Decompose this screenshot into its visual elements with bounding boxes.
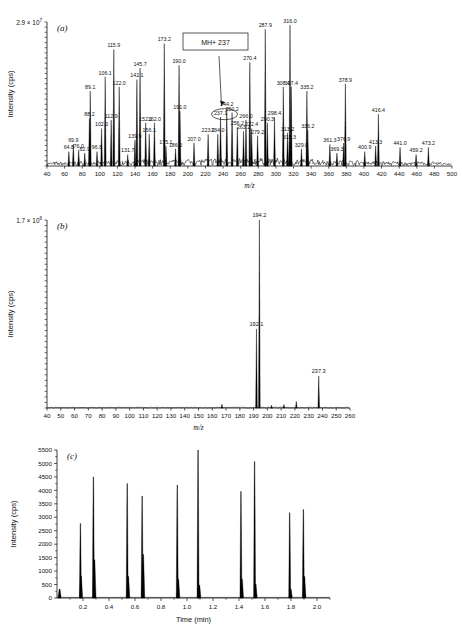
panel-c-peak [197, 450, 199, 598]
panel-a-xtick: 340 [306, 170, 317, 177]
panel-a-peak-label: 106.1 [99, 70, 112, 76]
panel-a-peak [207, 134, 209, 166]
panel-c-xtick: 2.0 [313, 603, 322, 610]
panel-b-peak [295, 401, 297, 408]
panel-a-peak [78, 150, 80, 166]
panel-a-peak [96, 152, 98, 166]
panel-a-peak-label: 82.9 [80, 146, 90, 152]
panel-a-peak [236, 127, 238, 166]
panel-a-peak-label: 316.0 [283, 18, 296, 24]
panel-b-xtick: 240 [317, 412, 328, 419]
panel-a-xtick: 100 [95, 170, 106, 177]
panel-b-peak-label: 192.1 [249, 321, 263, 327]
panel-b-svg: 4050607080901001101201301401501601701801… [0, 196, 462, 434]
panel-c-ytick: 3000 [38, 513, 52, 520]
panel-b-peak [221, 404, 223, 408]
panel-a-peak-label: 102.0 [95, 121, 108, 127]
panel-b-xtick: 60 [71, 412, 78, 419]
panel-b-xtick: 70 [85, 412, 92, 419]
panel-b-xtick: 210 [276, 412, 287, 419]
panel-a-peak [217, 134, 219, 166]
panel-a-peak [249, 62, 251, 166]
panel-a-peak-label: 145.7 [133, 61, 146, 67]
panel-a-peak-label: 279.2 [251, 129, 264, 135]
panel-a-peak-label: 115.9 [107, 42, 120, 48]
panel-a-peak [377, 114, 379, 166]
panel-a-peak [118, 87, 120, 166]
panel-c-chromatogram: 0500100015002000250030003500400045005000… [0, 434, 462, 630]
panel-b-y-scale: 1.7 × 106 [16, 216, 42, 224]
panel-a-peak-label: 378.9 [339, 77, 352, 83]
panel-a-peak [264, 29, 266, 166]
panel-b-peak [259, 220, 261, 408]
panel-c-peak [58, 589, 61, 598]
panel-a-peak [243, 131, 245, 166]
panel-a-peak-label: 173.2 [158, 36, 171, 42]
panel-a-xtick: 220 [200, 170, 211, 177]
panel-b-xtick: 130 [166, 412, 177, 419]
panel-a-xtick: 460 [412, 170, 423, 177]
panel-b-xtick: 150 [193, 412, 204, 419]
panel-a-peak-label: 64.8 [64, 144, 74, 150]
panel-a-peak-label: 190.0 [172, 58, 185, 64]
panel-b-xtick: 40 [44, 412, 51, 419]
panel-a-peak [257, 136, 259, 166]
panel-c-ytick: 0 [49, 594, 53, 601]
panel-c-xtick: 1.4 [235, 603, 244, 610]
panel-c-ytick: 2000 [38, 540, 52, 547]
panel-c-xtick: 0.8 [157, 603, 166, 610]
panel-c-peak [254, 462, 256, 598]
panel-b-xtick: 230 [304, 412, 315, 419]
panel-a-peak [136, 80, 138, 166]
panel-b-xtick: 170 [221, 412, 232, 419]
panel-a-peak [193, 143, 195, 166]
panel-a-peak-label: 336.2 [301, 123, 314, 129]
panel-a-peak-label: 441.0 [393, 140, 406, 146]
panel-c-xtick: 1.6 [261, 603, 270, 610]
panel-a-peak-label: 266.0 [239, 113, 252, 119]
panel-b-peak [318, 376, 320, 408]
panel-c-ytick: 3500 [38, 500, 52, 507]
panel-a-peak-label: 162.0 [148, 116, 161, 122]
panel-c-ytick: 1500 [38, 554, 52, 561]
panel-a-peak [127, 155, 129, 167]
panel-a-peak [89, 91, 91, 166]
panel-a-peak-label: 142.1 [130, 72, 143, 78]
panel-a-xtick: 40 [44, 170, 51, 177]
panel-a-peak [428, 147, 430, 166]
panel-b-peak-label: 237.3 [312, 368, 326, 374]
panel-a-peak [110, 120, 112, 166]
panel-b-xtick: 160 [207, 412, 218, 419]
panel-a-xtick: 400 [359, 170, 370, 177]
panel-a-xtick: 140 [130, 170, 141, 177]
panel-b-xtick: 110 [138, 412, 148, 419]
panel-a-peak-label: 89.1 [85, 84, 95, 90]
panel-a-peak-label: 156.1 [143, 127, 156, 133]
panel-a-peak-label: 317.4 [285, 80, 298, 86]
panel-a-label: (a) [57, 23, 68, 33]
panel-a-peak [101, 129, 103, 166]
panel-a-peak-label: 234.0 [211, 127, 224, 133]
panel-c-ytick: 4500 [38, 473, 52, 480]
panel-b-peak [256, 329, 258, 408]
panel-a-xtick: 120 [112, 170, 123, 177]
panel-a-peak-label: 369.3 [330, 146, 343, 152]
panel-a-peak-label: 96.8 [92, 144, 102, 150]
panel-b-xlabel: m/z [193, 423, 203, 432]
panel-c-xtick: 0.2 [79, 603, 88, 610]
panel-a-peak [375, 146, 377, 166]
panel-a-xtick: 440 [394, 170, 405, 177]
panel-a-peak-label: 88.2 [84, 111, 94, 117]
panel-a-peak [301, 149, 303, 166]
panel-b-peak [283, 405, 285, 408]
panel-a-xtick: 420 [376, 170, 387, 177]
panel-a-svg: 4060801001201401601802002202402602803003… [0, 0, 462, 196]
panel-a-peak-label: 298.4 [268, 110, 281, 116]
panel-a-mass-spectrum: 4060801001201401601802002202402602803003… [0, 0, 462, 196]
panel-b-xtick: 180 [235, 412, 246, 419]
panel-a-peak [220, 117, 222, 166]
panel-a-xtick: 80 [79, 170, 86, 177]
panel-b-xtick: 120 [152, 412, 163, 419]
panel-a-peak-label: 416.4 [372, 107, 385, 113]
panel-c-xtick: 1.8 [287, 603, 296, 610]
